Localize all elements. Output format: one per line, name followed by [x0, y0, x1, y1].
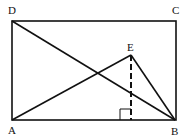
label-b: B	[171, 125, 178, 137]
label-d: D	[8, 4, 16, 16]
label-c: C	[172, 4, 179, 16]
geometry-diagram: D C A B E	[0, 0, 189, 140]
label-a: A	[8, 124, 16, 136]
diagonal-db	[12, 21, 175, 120]
segment-ae	[12, 55, 131, 120]
right-angle-mark	[120, 109, 131, 120]
label-e: E	[127, 41, 134, 53]
segment-eb	[131, 55, 175, 120]
